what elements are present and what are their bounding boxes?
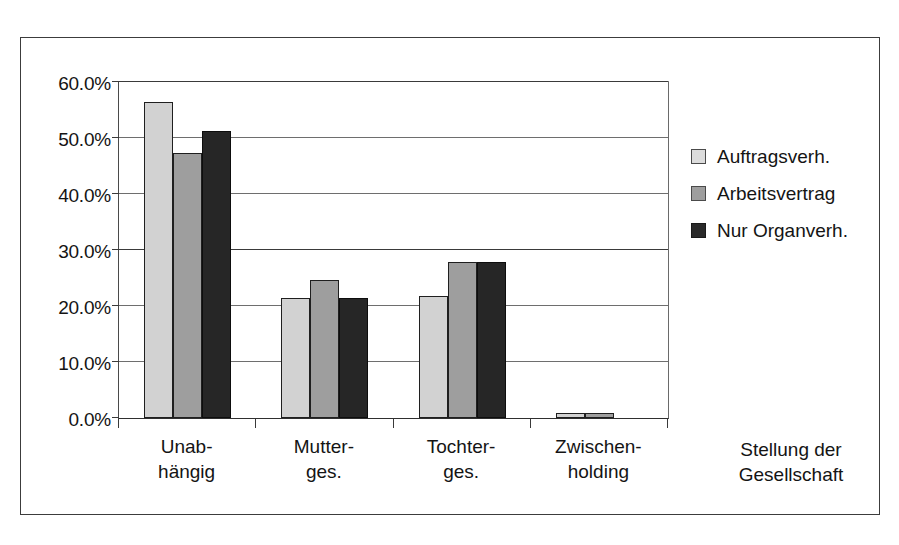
bar	[144, 102, 173, 418]
legend-swatch-icon	[691, 186, 706, 201]
x-axis-category-label: Tochter-ges.	[393, 434, 530, 484]
bar	[173, 153, 202, 418]
x-axis-category-label-group: Unab-hängigMutter-ges.Tochter-ges.Zwisch…	[118, 434, 669, 504]
y-axis-tick	[112, 305, 119, 306]
bar	[556, 413, 585, 418]
y-axis-tick-label: 50.0%	[37, 130, 111, 149]
x-axis-tick-group	[118, 419, 669, 429]
legend-item-label: Arbeitsvertrag	[717, 184, 835, 204]
x-axis-category-label-line: Mutter-	[255, 434, 392, 459]
y-axis-tick	[112, 249, 119, 250]
y-axis-label-group: 0.0%10.0%20.0%30.0%40.0%50.0%60.0%	[29, 81, 111, 419]
bar	[448, 262, 477, 418]
bar	[419, 296, 448, 418]
bar	[339, 298, 368, 418]
legend-item[interactable]: Auftragsverh.	[691, 138, 881, 175]
x-axis-title: Stellung der Gesellschaft	[701, 437, 881, 487]
legend-item-label: Auftragsverh.	[717, 147, 830, 167]
legend-item-label: Nur Organverh.	[717, 221, 848, 241]
bar	[585, 413, 614, 418]
x-axis-tick	[255, 419, 256, 428]
y-axis-tick	[112, 193, 119, 194]
x-axis-category-label-line: Tochter-	[393, 434, 530, 459]
x-axis-category-label: Zwischen-holding	[530, 434, 667, 484]
y-axis-tick-label: 10.0%	[37, 354, 111, 373]
x-axis-tick	[118, 419, 119, 428]
y-axis-tick-label: 30.0%	[37, 242, 111, 261]
bar	[477, 262, 506, 418]
x-axis-category-label-line: Zwischen-	[530, 434, 667, 459]
bar	[202, 131, 231, 418]
bar-group	[144, 82, 231, 418]
y-axis-tick	[112, 417, 119, 418]
bar	[310, 280, 339, 418]
x-axis-category-label-line: holding	[530, 459, 667, 484]
legend-item[interactable]: Arbeitsvertrag	[691, 175, 881, 212]
x-axis-title-line-1: Stellung der	[701, 437, 881, 462]
chart-frame: 0.0%10.0%20.0%30.0%40.0%50.0%60.0% Unab-…	[20, 37, 880, 515]
y-axis-tick	[112, 137, 119, 138]
x-axis-category-label-line: ges.	[255, 459, 392, 484]
y-axis-tick	[112, 81, 119, 82]
chart-legend: Auftragsverh.ArbeitsvertragNur Organverh…	[691, 138, 881, 249]
bar-group	[419, 82, 506, 418]
legend-swatch-icon	[691, 223, 706, 238]
y-axis-tick-label: 20.0%	[37, 298, 111, 317]
x-axis-category-label-line: hängig	[118, 459, 255, 484]
y-axis-tick-label: 0.0%	[37, 410, 111, 429]
plot-area	[118, 81, 669, 419]
y-axis-tick-label: 60.0%	[37, 74, 111, 93]
x-axis-category-label: Mutter-ges.	[255, 434, 392, 484]
x-axis-tick	[667, 419, 668, 428]
y-axis-tick-label: 40.0%	[37, 186, 111, 205]
legend-swatch-icon	[691, 149, 706, 164]
x-axis-category-label: Unab-hängig	[118, 434, 255, 484]
y-axis-tick	[112, 361, 119, 362]
bar-group	[556, 82, 643, 418]
x-axis-tick	[530, 419, 531, 428]
x-axis-title-line-2: Gesellschaft	[701, 462, 881, 487]
x-axis-category-label-line: ges.	[393, 459, 530, 484]
bar-group	[281, 82, 368, 418]
x-axis-tick	[393, 419, 394, 428]
x-axis-category-label-line: Unab-	[118, 434, 255, 459]
legend-item[interactable]: Nur Organverh.	[691, 212, 881, 249]
bar	[281, 298, 310, 418]
